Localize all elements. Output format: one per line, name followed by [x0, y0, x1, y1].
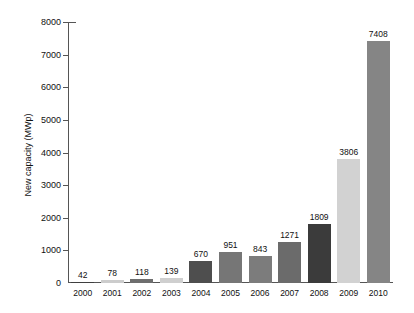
bar[interactable] [101, 280, 124, 283]
bar-group[interactable]: 18092008 [304, 22, 334, 283]
bar[interactable] [278, 242, 301, 283]
x-tick-label: 2005 [221, 288, 240, 298]
bar-group[interactable]: 8432006 [245, 22, 275, 283]
bar-value-label: 78 [108, 268, 117, 278]
x-tick-label: 2000 [73, 288, 92, 298]
x-tick-label: 2002 [132, 288, 151, 298]
bar-chart: New capacity (MWp) 010002000300040005000… [0, 0, 414, 313]
plot-area: 010002000300040005000600070008000 422000… [68, 22, 393, 283]
y-tick-label: 1000 [41, 246, 61, 255]
bar-series: 4220007820011182002139200367020049512005… [68, 22, 393, 283]
bar-group[interactable]: 1392003 [157, 22, 187, 283]
bar[interactable] [308, 224, 331, 283]
bar-value-label: 843 [253, 244, 267, 254]
x-tick-label: 2010 [369, 288, 388, 298]
bar[interactable] [130, 279, 153, 283]
bar-value-label: 118 [135, 267, 149, 277]
x-tick-label: 2001 [103, 288, 122, 298]
x-tick-label: 2003 [162, 288, 181, 298]
bar-value-label: 7408 [369, 29, 388, 39]
bar-group[interactable]: 422000 [68, 22, 98, 283]
bar-group[interactable]: 12712007 [275, 22, 305, 283]
bar-value-label: 951 [223, 240, 237, 250]
bar-value-label: 1809 [310, 212, 329, 222]
bar-group[interactable]: 6702004 [186, 22, 216, 283]
bar-value-label: 670 [194, 249, 208, 259]
bar-group[interactable]: 1182002 [127, 22, 157, 283]
bar-group[interactable]: 782001 [98, 22, 128, 283]
bar[interactable] [160, 278, 183, 283]
y-tick-label: 4000 [41, 148, 61, 157]
x-tick-label: 2008 [310, 288, 329, 298]
x-tick-label: 2004 [191, 288, 210, 298]
y-tick-label: 0 [56, 279, 61, 288]
y-tick-label: 2000 [41, 213, 61, 222]
bar-value-label: 139 [164, 266, 178, 276]
y-tick-label: 3000 [41, 181, 61, 190]
bar[interactable] [337, 159, 360, 283]
y-tick-label: 6000 [41, 83, 61, 92]
bar[interactable] [249, 256, 272, 284]
y-tick-label: 5000 [41, 115, 61, 124]
bar[interactable] [219, 252, 242, 283]
y-tick-label: 7000 [41, 50, 61, 59]
y-tick-label: 8000 [41, 18, 61, 27]
bar[interactable] [189, 261, 212, 283]
bar-group[interactable]: 74082010 [363, 22, 393, 283]
bar[interactable] [367, 41, 390, 283]
x-tick-label: 2009 [339, 288, 358, 298]
x-tick-label: 2006 [251, 288, 270, 298]
bar[interactable] [71, 282, 94, 283]
bar-value-label: 1271 [280, 230, 299, 240]
bar-group[interactable]: 38062009 [334, 22, 364, 283]
bar-value-label: 3806 [339, 147, 358, 157]
bar-value-label: 42 [78, 270, 87, 280]
bar-group[interactable]: 9512005 [216, 22, 246, 283]
x-tick-label: 2007 [280, 288, 299, 298]
y-axis-title: New capacity (MWp) [23, 75, 33, 235]
